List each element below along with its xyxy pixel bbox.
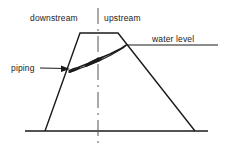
- dam-cross-section-diagram: downstream upstream water level piping: [0, 0, 226, 151]
- label-upstream: upstream: [104, 13, 141, 23]
- piping-wedge: [85, 57, 104, 67]
- label-downstream: downstream: [30, 13, 78, 23]
- embankment-outline: [45, 33, 195, 131]
- label-piping: piping: [11, 63, 35, 73]
- label-water-level: water level: [152, 34, 194, 44]
